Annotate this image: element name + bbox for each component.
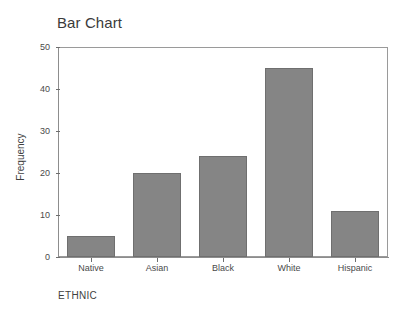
y-axis-tick-label: 40 xyxy=(26,85,50,94)
x-axis-tick-label: Black xyxy=(190,263,256,274)
y-axis-title: Frequency xyxy=(16,122,26,192)
chart-title: Bar Chart xyxy=(57,13,122,32)
y-axis-tick-label: 30 xyxy=(26,127,50,136)
x-axis-tick-mark xyxy=(289,258,290,262)
x-axis-tick-mark xyxy=(355,258,356,262)
y-axis-tick-label: 10 xyxy=(26,211,50,220)
y-axis-tick-mark xyxy=(56,257,60,258)
x-axis-tick-mark xyxy=(223,258,224,262)
x-axis-tick-label: Asian xyxy=(124,263,190,274)
bar-series xyxy=(58,47,388,257)
x-axis-tick-label: Native xyxy=(58,263,124,274)
bar-chart-figure: Bar Chart Frequency 01020304050 NativeAs… xyxy=(0,0,410,321)
y-axis-tick-label: 20 xyxy=(26,169,50,178)
x-axis-tick-mark xyxy=(157,258,158,262)
x-axis-tick-label: White xyxy=(256,263,322,274)
y-axis-tick-label: 0 xyxy=(26,253,50,262)
x-axis-title: ETHNIC xyxy=(58,290,97,302)
y-axis-tick-label: 50 xyxy=(26,43,50,52)
bar xyxy=(133,173,181,257)
x-axis-tick-mark xyxy=(91,258,92,262)
bar xyxy=(331,211,379,257)
x-axis-tick-label: Hispanic xyxy=(322,263,388,274)
bar xyxy=(265,68,313,257)
bar xyxy=(199,156,247,257)
bar xyxy=(67,236,115,257)
